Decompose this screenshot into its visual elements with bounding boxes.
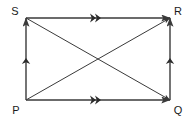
diagram-canvas: S R Q P	[0, 0, 192, 120]
vertex-label-P: P	[12, 104, 19, 116]
geometry-figure: S R Q P	[0, 0, 192, 120]
vertex-label-S: S	[11, 5, 18, 17]
vertex-label-R: R	[174, 5, 182, 17]
vertex-label-Q: Q	[174, 104, 183, 116]
